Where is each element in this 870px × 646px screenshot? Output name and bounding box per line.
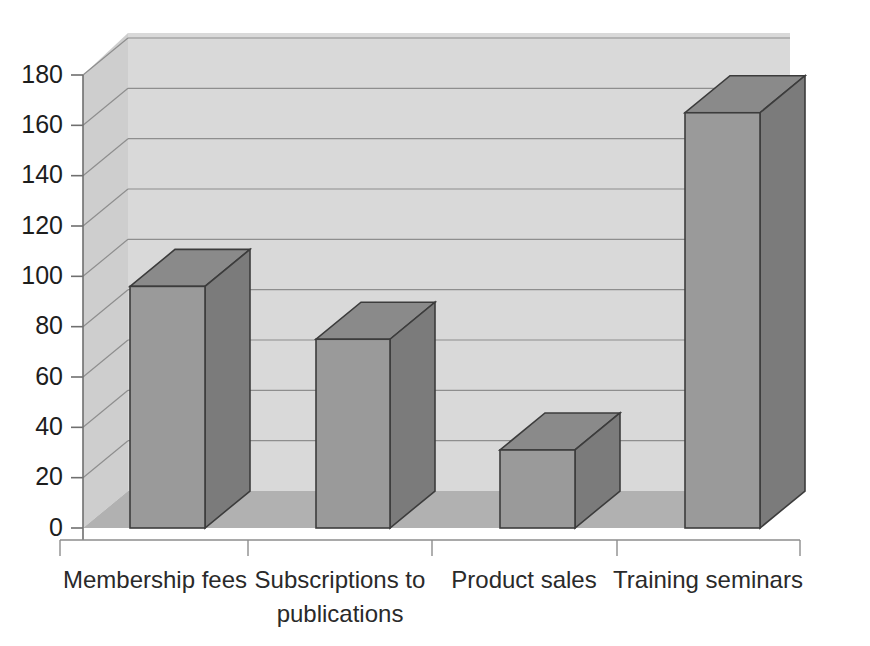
- bar-side-face: [760, 76, 805, 528]
- category-axis: [60, 540, 800, 556]
- bar-front-face: [685, 113, 760, 528]
- bar-front-face: [500, 450, 575, 528]
- y-axis-tick-label: 140: [21, 160, 63, 188]
- x-axis-category-label: publications: [277, 600, 404, 627]
- y-axis-ticks: [71, 75, 83, 528]
- bar-column: [316, 302, 435, 528]
- y-axis-tick-label: 80: [35, 311, 63, 339]
- x-axis-category-label: Product sales: [451, 566, 596, 593]
- bar-chart-3d: 020406080100120140160180 Membership fees…: [0, 0, 870, 646]
- bar-front-face: [130, 286, 205, 528]
- y-axis-tick-label: 120: [21, 211, 63, 239]
- bar-side-face: [390, 302, 435, 528]
- x-axis-category-label: Subscriptions to: [255, 566, 426, 593]
- y-axis-tick-label: 60: [35, 362, 63, 390]
- chart-container: 020406080100120140160180 Membership fees…: [0, 0, 870, 646]
- x-axis-separators: [60, 540, 800, 556]
- y-axis-tick-label: 0: [49, 513, 63, 541]
- y-axis-tick-label: 40: [35, 412, 63, 440]
- value-axis: [71, 75, 83, 540]
- y-axis-tick-label: 100: [21, 261, 63, 289]
- y-axis-tick-labels: 020406080100120140160180: [21, 60, 63, 541]
- bar-column: [685, 76, 805, 528]
- bar-front-face: [316, 339, 390, 528]
- bar-column: [130, 249, 250, 528]
- y-axis-tick-label: 20: [35, 462, 63, 490]
- x-axis-category-label: Training seminars: [613, 566, 803, 593]
- y-axis-tick-label: 160: [21, 110, 63, 138]
- x-axis-category-label: Membership fees: [63, 566, 247, 593]
- y-axis-tick-label: 180: [21, 60, 63, 88]
- x-axis-category-labels: Membership feesSubscriptions topublicati…: [63, 566, 803, 627]
- bar-side-face: [205, 249, 250, 528]
